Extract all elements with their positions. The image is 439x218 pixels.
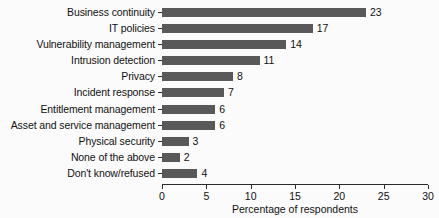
bar-value-label: 7	[228, 87, 234, 98]
x-axis-tick-label: 25	[378, 190, 390, 202]
chart-plot-area: Business continuity23IT policies17Vulner…	[0, 4, 439, 182]
category-label: Asset and service management	[0, 120, 155, 131]
bar	[162, 24, 313, 33]
x-axis-tick-label: 15	[289, 190, 301, 202]
x-axis-tick-label: 0	[159, 190, 165, 202]
bar	[162, 88, 224, 97]
bar-container: 14	[162, 36, 302, 52]
chart-bar-row: Physical security3	[0, 133, 439, 149]
bar	[162, 72, 233, 81]
x-axis-tick	[251, 185, 252, 189]
x-axis-tick-label: 5	[203, 190, 209, 202]
category-label: None of the above	[0, 152, 155, 163]
chart-bar-row: IT policies17	[0, 20, 439, 36]
chart-bar-row: None of the above2	[0, 150, 439, 166]
x-axis-tick	[206, 185, 207, 189]
bar-value-label: 4	[201, 168, 207, 179]
bar-chart: Business continuity23IT policies17Vulner…	[0, 0, 439, 218]
category-label: Vulnerability management	[0, 39, 155, 50]
bar	[162, 56, 260, 65]
bar	[162, 153, 180, 162]
bar-container: 3	[162, 133, 198, 149]
bar	[162, 8, 366, 17]
category-label: IT policies	[0, 23, 155, 34]
x-axis-tick	[384, 185, 385, 189]
x-axis-tick-label: 20	[333, 190, 345, 202]
bar	[162, 121, 215, 130]
bar-container: 2	[162, 150, 190, 166]
category-label: Privacy	[0, 71, 155, 82]
x-axis-tick-label: 10	[245, 190, 257, 202]
chart-bar-row: Intrusion detection11	[0, 53, 439, 69]
bar-value-label: 14	[290, 39, 302, 50]
bar-value-label: 6	[219, 104, 225, 115]
bar-value-label: 6	[219, 120, 225, 131]
category-label: Physical security	[0, 136, 155, 147]
bar-container: 17	[162, 20, 328, 36]
chart-bar-row: Incident response7	[0, 85, 439, 101]
category-label: Business continuity	[0, 7, 155, 18]
category-label: Don't know/refused	[0, 168, 155, 179]
x-axis-tick	[428, 185, 429, 189]
bar-value-label: 23	[370, 7, 382, 18]
bar-value-label: 3	[193, 136, 199, 147]
chart-bar-row: Don't know/refused4	[0, 166, 439, 182]
bar-container: 7	[162, 85, 234, 101]
x-axis-tick	[162, 185, 163, 189]
bar-container: 6	[162, 101, 225, 117]
category-label: Entitlement management	[0, 104, 155, 115]
x-axis-tick	[295, 185, 296, 189]
bar	[162, 137, 189, 146]
bar	[162, 105, 215, 114]
bar	[162, 169, 197, 178]
chart-bar-row: Asset and service management6	[0, 117, 439, 133]
bar	[162, 40, 286, 49]
chart-bar-row: Business continuity23	[0, 4, 439, 20]
bar-value-label: 17	[317, 23, 329, 34]
bar-container: 6	[162, 117, 225, 133]
chart-bar-row: Privacy8	[0, 69, 439, 85]
chart-bar-row: Vulnerability management14	[0, 36, 439, 52]
x-axis-tick	[339, 185, 340, 189]
category-label: Incident response	[0, 87, 155, 98]
x-axis-title: Percentage of respondents	[162, 203, 428, 215]
chart-bar-row: Entitlement management6	[0, 101, 439, 117]
bar-container: 8	[162, 69, 243, 85]
category-label: Intrusion detection	[0, 55, 155, 66]
bar-value-label: 8	[237, 71, 243, 82]
bar-value-label: 11	[264, 55, 275, 66]
bar-container: 4	[162, 166, 207, 182]
bar-container: 23	[162, 4, 382, 20]
bar-container: 11	[162, 53, 274, 69]
bar-value-label: 2	[184, 152, 190, 163]
x-axis-tick-label: 30	[422, 190, 434, 202]
